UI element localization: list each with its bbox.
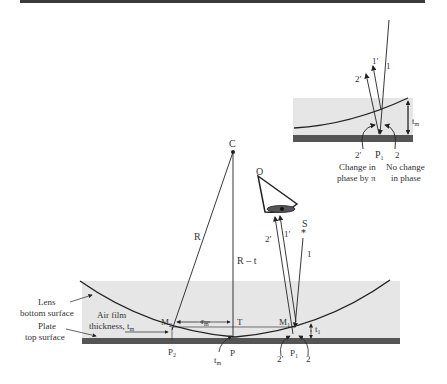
p2-label: P2 [168, 347, 176, 358]
observer-label: O [256, 166, 263, 177]
air-film-label-2: thickness, tm [89, 321, 135, 332]
ray-2prime-label: 2′ [265, 234, 272, 244]
inset-2prime-bottom: 2′ [355, 150, 362, 160]
tm-bottom-label: tm [214, 355, 222, 366]
inset-nochange-line1: No change [386, 162, 425, 172]
inset-change-line1: Change in [339, 162, 376, 172]
inset-ray-1prime-label: 1′ [372, 56, 379, 66]
radius-label: R [194, 231, 201, 242]
plate-label-2: top surface [25, 332, 65, 342]
air-film-label-1: Air film [97, 310, 126, 320]
inset-tm-label: tm [412, 116, 420, 127]
inset-change-line2: phase by π [337, 173, 376, 183]
p1-label: P1 [290, 348, 298, 359]
inset-2-bottom: 2 [395, 150, 400, 160]
inset-p1-label: P1 [375, 149, 384, 161]
ray-1prime-label: 1′ [284, 229, 291, 239]
bottom-2prime-label: 2′ [277, 354, 284, 364]
lens-label-1: Lens [38, 297, 56, 307]
inset-nochange-line2: in phase [391, 173, 421, 183]
inset-ray-1-label: 1 [386, 61, 391, 71]
source-label: S [302, 218, 308, 229]
t-label: T [237, 317, 243, 327]
newtons-rings-diagram: 1′ 1 2′ tm 2′ P1 2 Change in phase by π … [0, 0, 447, 384]
inset-ray-2prime-label: 2′ [355, 74, 362, 84]
lens-label-2: bottom surface [20, 308, 74, 318]
p-label: P [230, 348, 235, 358]
ray-1-label: 1 [307, 249, 312, 259]
r-minus-t-label: R – t [237, 255, 257, 266]
bottom-2-label: 2 [306, 354, 311, 364]
inset-diagram [293, 20, 413, 149]
top-bar [20, 0, 425, 3]
plate-label-1: Plate [38, 321, 56, 331]
center-c-label: C [229, 138, 236, 149]
